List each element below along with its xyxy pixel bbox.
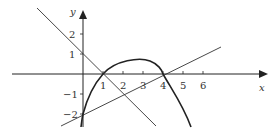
x-tick-label: 4 [160,80,166,91]
y-tick-label: 1 [69,49,75,60]
y-tick-label: 2 [69,29,75,40]
x-tick-label: 5 [180,80,186,91]
x-axis-label: x [259,82,265,93]
y-tick-label: −2 [63,109,78,120]
y-tick-label: −1 [63,89,78,100]
x-axis-arrow-icon [259,70,268,78]
y-axis-arrow-icon [79,10,87,19]
x-tick-label: 6 [200,80,206,91]
x-tick-label: 3 [140,80,146,91]
y-axis-label: y [69,6,76,17]
x-tick-label: 2 [120,80,126,91]
x-tick-label: 1 [100,80,106,91]
graph: y x 1 2 3 4 5 6 2 1 −1 −2 [0,0,275,137]
